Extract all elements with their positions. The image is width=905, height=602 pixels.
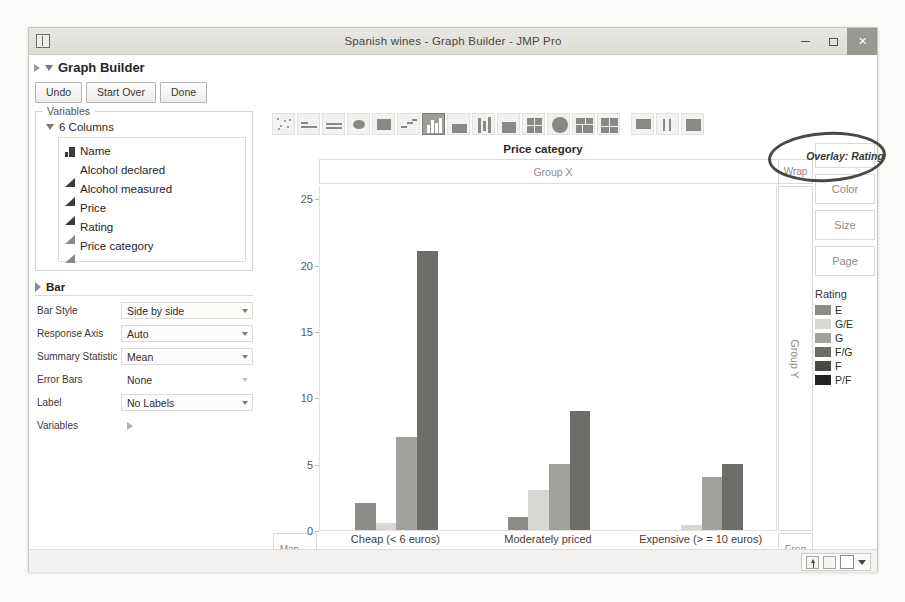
legend-item[interactable]: E (815, 304, 875, 316)
maximize-button[interactable] (819, 28, 847, 55)
toolbar-treemap-icon[interactable] (572, 113, 595, 135)
bar-moderately-priced-F-G[interactable] (570, 411, 591, 530)
label-select[interactable]: No Labels (121, 394, 253, 411)
property-label: Variables (35, 420, 121, 431)
column-label: Alcohol measured (80, 182, 172, 197)
legend-color-swatch (815, 333, 831, 343)
chart-legend: Rating EG/EGF/GFP/F (815, 288, 875, 386)
bar-moderately-priced-G-E[interactable] (528, 490, 549, 530)
bar-expensive-10-euros--F-G[interactable] (722, 464, 743, 530)
column-item-rating[interactable]: Rating (63, 218, 241, 237)
dropdown-caret-icon[interactable] (858, 560, 866, 565)
toolbar-points-icon[interactable] (272, 113, 295, 135)
property-row-label: Label No Labels (35, 394, 253, 411)
status-bar (29, 549, 877, 572)
bar-cheap-6-euros--E[interactable] (355, 503, 376, 530)
blank-square-icon[interactable] (840, 555, 854, 569)
dropzone-label: Wrap (784, 166, 808, 177)
dropzone-page[interactable]: Page (815, 246, 875, 276)
bar-section-header[interactable]: Bar (35, 281, 253, 296)
column-item-alcohol-declared[interactable]: Alcohol declared (63, 161, 241, 180)
start-over-button[interactable]: Start Over (86, 82, 156, 103)
close-button[interactable]: ✕ (847, 28, 877, 55)
legend-item[interactable]: G (815, 332, 875, 344)
plot-area[interactable] (319, 186, 777, 531)
bar-expensive-10-euros--G[interactable] (702, 477, 723, 530)
toolbar-map-shapes-icon[interactable] (681, 113, 704, 135)
dropzone-label: Page (832, 255, 858, 267)
legend-item[interactable]: F (815, 360, 875, 372)
x-axis-tick-label: Moderately priced (472, 533, 625, 545)
bar-section-disclosure-icon[interactable] (35, 282, 41, 292)
property-label: Label (35, 397, 121, 408)
columns-disclosure-icon[interactable] (46, 124, 54, 130)
toolbar-mosaic-icon[interactable] (597, 113, 620, 135)
bar-cheap-6-euros--G-E[interactable] (376, 523, 397, 530)
bar-section-title: Bar (46, 281, 65, 293)
columns-count-label: 6 Columns (59, 121, 114, 133)
y-axis-tick-label: 5 (307, 459, 313, 471)
property-value: Auto (127, 328, 149, 340)
toolbar-histogram-icon[interactable] (497, 113, 520, 135)
dropzone-wrap[interactable]: Wrap (778, 159, 813, 184)
legend-item[interactable]: G/E (815, 318, 875, 330)
columns-header-row[interactable]: 6 Columns (42, 120, 246, 137)
status-bar-tools (801, 553, 871, 571)
property-row-response-axis: Response Axis Auto (35, 325, 253, 342)
column-label: Alcohol declared (80, 163, 165, 178)
done-button[interactable]: Done (160, 82, 207, 103)
column-item-alcohol-measured[interactable]: Alcohol measured (63, 180, 241, 199)
dropzone-size[interactable]: Size (815, 210, 875, 240)
summary-statistic-select[interactable]: Mean (121, 348, 253, 365)
overlay-label: Overlay: Rating (806, 150, 884, 162)
bar-expensive-10-euros--G-E[interactable] (681, 525, 702, 530)
chevron-down-icon (242, 309, 248, 313)
export-up-icon[interactable] (806, 556, 819, 569)
undo-button[interactable]: Undo (35, 82, 82, 103)
legend-item[interactable]: P/F (815, 374, 875, 386)
dropzone-label: Group Y (790, 339, 802, 378)
bar-moderately-priced-E[interactable] (508, 517, 529, 530)
toolbar-ellipse-icon[interactable] (347, 113, 370, 135)
toolbar-heatmap-icon[interactable] (522, 113, 545, 135)
platform-disclosure-icon[interactable] (45, 65, 53, 71)
toolbar-line-of-fit-icon[interactable] (322, 113, 345, 135)
toolbar-formula-icon[interactable] (656, 113, 679, 135)
toolbar-smoother-icon[interactable] (297, 113, 320, 135)
y-axis-tick-label: 0 (307, 525, 313, 537)
dropzone-group-y[interactable]: Group Y (778, 186, 813, 531)
bar-cheap-6-euros--F-G[interactable] (417, 251, 438, 530)
bar-moderately-priced-G[interactable] (549, 464, 570, 530)
variables-expander[interactable] (121, 417, 253, 434)
column-item-price-category[interactable]: Price category (63, 237, 241, 256)
bar-style-select[interactable]: Side by side (121, 302, 253, 319)
toolbar-contour-icon[interactable] (372, 113, 395, 135)
minimize-button[interactable] (791, 28, 819, 55)
legend-item[interactable]: F/G (815, 346, 875, 358)
chart-title: Price category (273, 143, 813, 159)
column-item-name[interactable]: Name (63, 142, 241, 161)
response-axis-select[interactable]: Auto (121, 325, 253, 342)
property-label: Bar Style (35, 305, 121, 316)
window-titlebar[interactable]: Spanish wines - Graph Builder - JMP Pro … (29, 28, 877, 55)
toolbar-line-chart-icon[interactable] (397, 113, 420, 135)
ordinal-triangle-icon (65, 242, 75, 263)
toolbar-area-chart-icon[interactable] (447, 113, 470, 135)
error-bars-select[interactable]: None (121, 371, 253, 388)
copy-icon[interactable] (823, 556, 836, 569)
toolbar-pie-chart-icon[interactable] (547, 113, 570, 135)
bar-cheap-6-euros--G[interactable] (396, 437, 417, 530)
toolbar-box-plot-icon[interactable] (472, 113, 495, 135)
toolbar-caption-box-icon[interactable] (631, 113, 654, 135)
dropzone-color[interactable]: Color (815, 174, 875, 204)
column-list: Name Alcohol declared Alcohol measured (58, 137, 246, 262)
y-axis-tick-label: 10 (301, 392, 313, 404)
dropzone-overlay[interactable]: Overlay: Rating (815, 143, 875, 168)
dropzone-group-x[interactable]: Group X (319, 159, 787, 184)
y-axis-tick-label: 20 (301, 260, 313, 272)
toolbar-bar-chart-icon[interactable] (422, 113, 445, 135)
variables-legend: Variables (43, 105, 94, 117)
outline-disclosure-icon[interactable] (34, 64, 40, 72)
y-axis[interactable]: 0510152025 (273, 186, 319, 531)
column-item-price[interactable]: Price (63, 199, 241, 218)
